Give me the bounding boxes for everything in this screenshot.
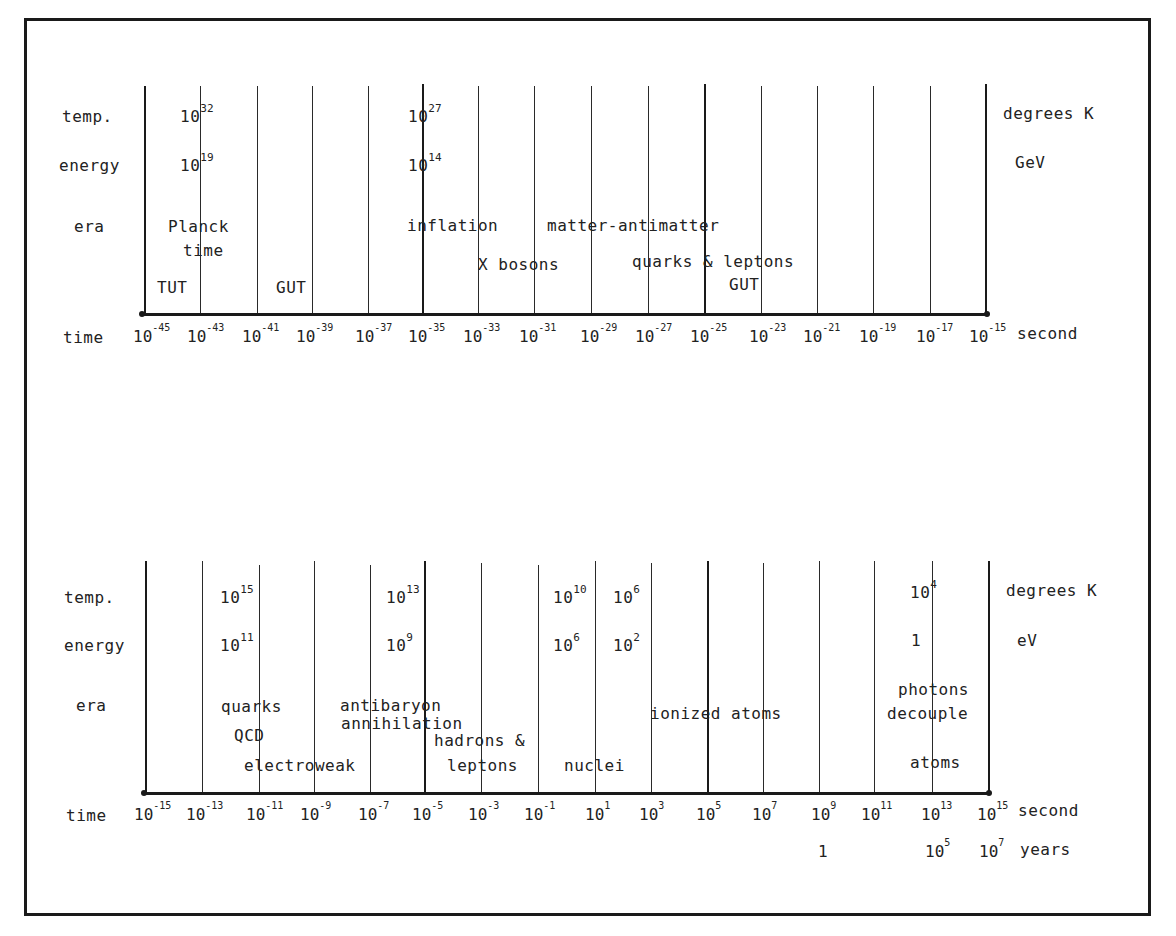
grid-line bbox=[873, 86, 874, 314]
era-hadrons: hadrons & bbox=[434, 732, 525, 750]
grid-line bbox=[534, 86, 535, 314]
era-planck: Planck bbox=[168, 218, 229, 236]
row-label-energy: energy bbox=[59, 157, 120, 175]
time-tick: 107 bbox=[752, 806, 777, 824]
era-atoms: atoms bbox=[910, 754, 961, 772]
energy-value: 102 bbox=[613, 637, 640, 655]
grid-line bbox=[763, 563, 764, 794]
grid-line bbox=[707, 561, 709, 794]
years-tick: 105 bbox=[925, 843, 950, 861]
grid-line bbox=[985, 84, 987, 314]
grid-line bbox=[819, 561, 820, 794]
era-x-bosons: X bosons bbox=[478, 256, 559, 274]
grid-line bbox=[988, 561, 990, 794]
time-tick: 103 bbox=[639, 806, 664, 824]
era-photons: photons bbox=[898, 681, 969, 699]
unit-temp: degrees K bbox=[1003, 105, 1094, 123]
era-leptons: leptons bbox=[447, 757, 518, 775]
time-tick: 109 bbox=[811, 806, 836, 824]
era-antibaryon: antibaryon bbox=[340, 697, 441, 715]
grid-line bbox=[370, 565, 371, 794]
unit-time: second bbox=[1018, 802, 1079, 820]
unit-years: years bbox=[1020, 841, 1071, 859]
time-axis bbox=[143, 792, 991, 795]
time-tick: 10-3 bbox=[468, 806, 499, 824]
time-tick: 10-7 bbox=[358, 806, 389, 824]
row-label-era: era bbox=[74, 218, 104, 236]
temp-value: 1032 bbox=[180, 108, 214, 126]
energy-value: 1014 bbox=[408, 157, 442, 175]
time-axis bbox=[142, 313, 989, 316]
time-tick: 10-9 bbox=[300, 806, 331, 824]
unit-energy: eV bbox=[1017, 632, 1037, 650]
axis-end-dot bbox=[986, 790, 992, 796]
temp-value: 1027 bbox=[408, 108, 442, 126]
row-label-temp: temp. bbox=[62, 108, 113, 126]
era-gut-left: GUT bbox=[276, 279, 306, 297]
row-label-time: time bbox=[66, 807, 107, 825]
energy-value: 1011 bbox=[220, 637, 254, 655]
energy-value: 1 bbox=[911, 632, 921, 650]
grid-line bbox=[257, 86, 258, 314]
grid-line bbox=[651, 563, 652, 794]
grid-line bbox=[145, 561, 147, 794]
time-tick: 1011 bbox=[861, 806, 892, 824]
grid-line bbox=[704, 84, 706, 314]
time-tick: 105 bbox=[696, 806, 721, 824]
era-gut-right: GUT bbox=[729, 276, 759, 294]
time-tick: 10-15 bbox=[134, 806, 171, 824]
grid-line bbox=[648, 86, 649, 314]
temp-value: 104 bbox=[910, 584, 937, 602]
time-tick: 10-21 bbox=[803, 328, 840, 346]
time-tick: 10-35 bbox=[408, 328, 445, 346]
energy-value: 109 bbox=[386, 637, 413, 655]
energy-value: 106 bbox=[553, 637, 580, 655]
row-label-time: time bbox=[63, 329, 104, 347]
time-tick: 10-37 bbox=[355, 328, 392, 346]
row-label-temp: temp. bbox=[64, 589, 115, 607]
temp-value: 1013 bbox=[386, 589, 420, 607]
grid-line bbox=[874, 561, 875, 794]
era-quarks: quarks bbox=[221, 698, 282, 716]
time-tick: 10-15 bbox=[969, 328, 1006, 346]
era-qcd: QCD bbox=[234, 727, 264, 745]
time-tick: 1013 bbox=[921, 806, 952, 824]
era-tut: TUT bbox=[157, 279, 187, 297]
time-tick: 10-19 bbox=[859, 328, 896, 346]
time-tick: 1015 bbox=[977, 806, 1008, 824]
grid-line bbox=[538, 565, 539, 794]
axis-end-dot bbox=[984, 311, 990, 317]
row-label-energy: energy bbox=[64, 637, 125, 655]
era-ionized-atoms: ionized atoms bbox=[650, 705, 782, 723]
era-nuclei: nuclei bbox=[564, 757, 625, 775]
row-label-era: era bbox=[76, 697, 106, 715]
grid-line bbox=[817, 86, 818, 314]
time-tick: 10-33 bbox=[463, 328, 500, 346]
time-tick: 10-31 bbox=[519, 328, 556, 346]
unit-temp: degrees K bbox=[1006, 582, 1097, 600]
grid-line bbox=[202, 561, 203, 794]
diagram-frame bbox=[24, 18, 1151, 916]
years-tick: 107 bbox=[979, 843, 1004, 861]
time-tick: 10-25 bbox=[690, 328, 727, 346]
grid-line bbox=[424, 561, 426, 794]
axis-end-dot bbox=[139, 311, 145, 317]
time-tick: 10-11 bbox=[246, 806, 283, 824]
years-tick: 1 bbox=[818, 843, 828, 861]
time-tick: 10-27 bbox=[635, 328, 672, 346]
unit-time: second bbox=[1017, 325, 1078, 343]
time-tick: 10-45 bbox=[133, 328, 170, 346]
time-tick: 10-23 bbox=[749, 328, 786, 346]
unit-energy: GeV bbox=[1015, 154, 1045, 172]
era-decouple: decouple bbox=[887, 705, 968, 723]
temp-value: 1015 bbox=[220, 589, 254, 607]
time-tick: 10-29 bbox=[580, 328, 617, 346]
grid-line bbox=[368, 86, 369, 314]
grid-line bbox=[761, 86, 762, 314]
time-tick: 10-17 bbox=[916, 328, 953, 346]
era-quarks-leptons: quarks & leptons bbox=[632, 253, 794, 271]
time-tick: 10-5 bbox=[412, 806, 443, 824]
era-inflation: inflation bbox=[407, 217, 498, 235]
grid-line bbox=[144, 86, 146, 314]
time-tick: 101 bbox=[585, 806, 610, 824]
